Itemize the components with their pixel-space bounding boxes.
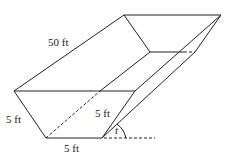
top-right-edge xyxy=(135,15,221,91)
floor-edge xyxy=(100,52,150,91)
length-label: 50 ft xyxy=(48,36,68,48)
angle-label: t xyxy=(115,124,119,136)
trough-diagram: 50 ft 5 ft 5 ft 5 ft t xyxy=(0,0,235,158)
angle-arc xyxy=(117,124,126,138)
side-right-label: 5 ft xyxy=(95,107,110,119)
bottom-label: 5 ft xyxy=(64,142,79,154)
top-left-edge xyxy=(14,15,124,91)
back-right-slope xyxy=(195,15,221,52)
side-left-label: 5 ft xyxy=(6,113,21,125)
back-left-slope xyxy=(124,15,150,52)
hidden-bottom-edge xyxy=(46,91,100,138)
